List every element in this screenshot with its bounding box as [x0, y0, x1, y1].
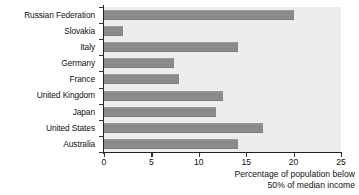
y-axis-tick — [99, 23, 104, 24]
bar-row — [104, 7, 341, 23]
y-axis-tick — [99, 120, 104, 121]
y-axis-category-labels: Russian Federation Slovakia Italy German… — [0, 7, 100, 152]
bar — [104, 58, 174, 68]
bar — [104, 74, 179, 84]
x-axis-title-line-1: Percentage of population below — [140, 169, 355, 180]
bar-series — [104, 7, 341, 152]
x-axis-title-line-2: 50% of median income — [140, 180, 355, 191]
y-axis-tick — [99, 55, 104, 56]
bar-row — [104, 23, 341, 39]
bar-row — [104, 120, 341, 136]
y-axis-tick — [99, 104, 104, 105]
x-axis-tick-label: 25 — [336, 158, 346, 167]
y-axis-tick-label: Italy — [0, 39, 100, 55]
bar-row — [104, 55, 341, 71]
y-axis-tick-label: Germany — [0, 55, 100, 71]
y-axis-tick-label: United States — [0, 120, 100, 136]
bar — [104, 42, 238, 52]
bar — [104, 10, 294, 20]
x-axis-tick-label: 5 — [149, 158, 154, 167]
y-axis-tick — [99, 136, 104, 137]
bar — [104, 139, 238, 149]
bar — [104, 107, 216, 117]
x-axis-tick-label: 20 — [289, 158, 299, 167]
x-axis-title: Percentage of population below 50% of me… — [140, 169, 355, 190]
bar-row — [104, 71, 341, 87]
y-axis-tick-label: United Kingdom — [0, 88, 100, 104]
bar — [104, 91, 223, 101]
y-axis-tick-label: France — [0, 71, 100, 87]
y-axis-tick — [99, 88, 104, 89]
bar-row — [104, 104, 341, 120]
y-axis-tick-label: Russian Federation — [0, 7, 100, 23]
y-axis-tick — [99, 39, 104, 40]
bar — [104, 123, 263, 133]
bar-row — [104, 88, 341, 104]
y-axis-tick — [99, 7, 104, 8]
y-axis-line — [103, 5, 104, 154]
x-axis-tick-label: 10 — [194, 158, 204, 167]
plot-area — [104, 7, 341, 152]
bar-row — [104, 136, 341, 152]
bar-row — [104, 39, 341, 55]
bar-chart: Russian Federation Slovakia Italy German… — [0, 0, 359, 195]
bar — [104, 26, 123, 36]
y-axis-tick-label: Japan — [0, 104, 100, 120]
x-axis-tick-label: 0 — [102, 158, 107, 167]
y-axis-tick — [99, 71, 104, 72]
y-axis-tick-label: Australia — [0, 136, 100, 152]
x-axis-line — [103, 152, 342, 153]
y-axis-tick-label: Slovakia — [0, 23, 100, 39]
x-axis-tick-label: 15 — [241, 158, 251, 167]
